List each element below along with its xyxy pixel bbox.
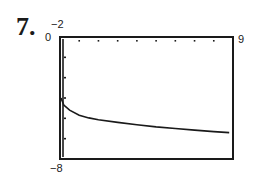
y-tick-mark (64, 97, 66, 99)
y-tick-mark (64, 77, 66, 79)
graph-window (0, 0, 255, 180)
x-tick-mark (136, 40, 138, 42)
y-tick-mark (64, 118, 66, 120)
x-tick-mark (213, 40, 215, 42)
y-tick-mark (64, 138, 66, 140)
curve-line (61, 98, 229, 133)
x-tick-mark (175, 40, 177, 42)
x-tick-mark (194, 40, 196, 42)
plot-frame (60, 37, 233, 159)
x-tick-mark (117, 40, 119, 42)
x-tick-mark (98, 40, 100, 42)
x-tick-mark (155, 40, 157, 42)
x-tick-mark (78, 40, 80, 42)
y-tick-mark (64, 57, 66, 59)
